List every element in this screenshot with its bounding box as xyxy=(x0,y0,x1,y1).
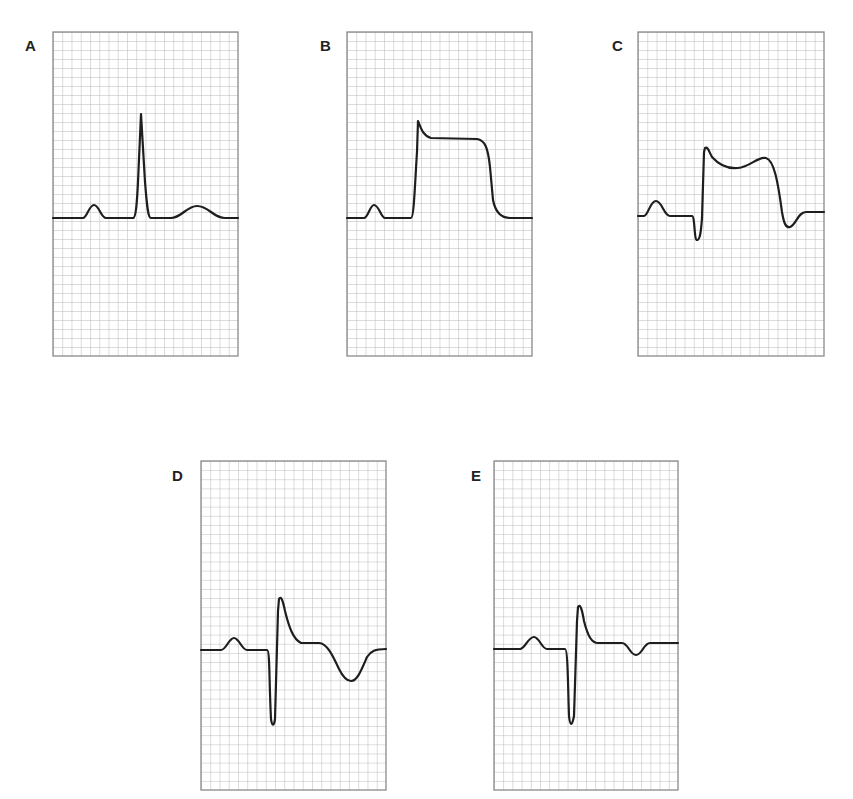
grid-paper xyxy=(638,32,824,356)
panel-label-c: C xyxy=(612,38,623,53)
ecg-panel-e xyxy=(494,461,678,790)
panel-label-a: A xyxy=(25,38,36,53)
grid-paper xyxy=(347,32,532,356)
panel-label-e: E xyxy=(471,468,481,483)
grid-paper xyxy=(201,461,386,790)
ecg-strip-b xyxy=(347,32,532,356)
ecg-strip-a xyxy=(53,32,238,356)
panel-label-d: D xyxy=(172,468,183,483)
ecg-panel-d xyxy=(201,461,386,790)
ecg-strip-e xyxy=(494,461,678,790)
ecg-strip-d xyxy=(201,461,386,790)
panel-label-b: B xyxy=(320,38,331,53)
ecg-panel-b xyxy=(347,32,532,356)
ecg-panel-c xyxy=(638,32,824,356)
ecg-panel-a xyxy=(53,32,238,356)
ecg-strip-c xyxy=(638,32,824,356)
